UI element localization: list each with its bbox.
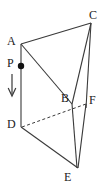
edge-DE: [21, 127, 78, 168]
point-p-dot: [18, 63, 24, 69]
vertex-label-P: P: [7, 57, 14, 69]
vertex-label-B: B: [61, 92, 69, 104]
edge-EF: [78, 104, 86, 168]
vertex-label-F: F: [89, 94, 96, 106]
geometry-figure: A P D C B F E: [0, 0, 108, 189]
point-p-marker: [18, 63, 24, 69]
vertex-label-E: E: [64, 171, 71, 183]
edge-DF-hidden: [22, 104, 86, 127]
downward-arrow-icon: [8, 74, 16, 96]
edge-BE: [72, 104, 77, 168]
prism-edges: [21, 23, 91, 168]
vertex-label-C: C: [89, 9, 97, 21]
vertex-label-A: A: [7, 35, 16, 47]
edge-AC: [21, 23, 91, 44]
vertex-label-D: D: [7, 118, 16, 130]
